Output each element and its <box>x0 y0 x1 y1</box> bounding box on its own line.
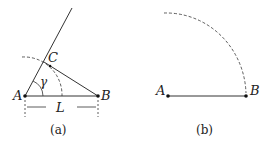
segment-cb <box>44 62 98 96</box>
figure-b: A B (b) <box>155 13 260 137</box>
label-b: B <box>249 83 260 98</box>
point-b <box>244 94 248 98</box>
diagram: A B C γ L (a) A B (b) <box>0 0 267 143</box>
label-l: L <box>55 100 65 115</box>
label-b: B <box>100 88 111 103</box>
label-gamma: γ <box>40 75 48 89</box>
point-a <box>23 94 27 98</box>
label-c: C <box>48 50 58 65</box>
point-b <box>96 94 100 98</box>
figure-a: A B C γ L (a) <box>12 8 111 137</box>
point-c-mark <box>49 65 52 68</box>
dashed-arc <box>164 13 246 93</box>
caption-b: (b) <box>196 123 213 137</box>
caption-a: (a) <box>50 123 67 137</box>
point-a <box>166 94 170 98</box>
label-a: A <box>12 88 22 103</box>
label-a: A <box>155 83 165 98</box>
